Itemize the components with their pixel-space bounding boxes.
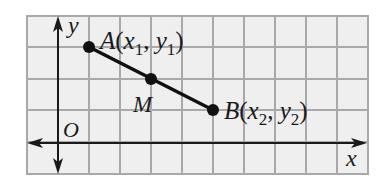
coordinate-diagram: y x O A(x1, y1) M B(x2, y2) [0, 0, 391, 189]
point-a [83, 41, 95, 53]
origin-label: O [63, 117, 79, 142]
x-axis-label: x [345, 145, 357, 171]
grid [27, 16, 368, 174]
y-axis-label: y [66, 12, 79, 38]
point-b [207, 104, 219, 116]
point-m [145, 73, 157, 85]
point-m-label: M [132, 92, 154, 117]
